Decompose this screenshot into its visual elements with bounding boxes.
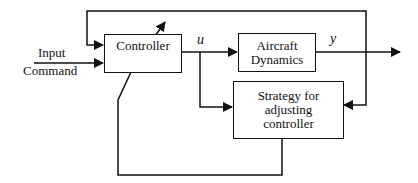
diagram-connections (0, 0, 418, 183)
input-label: Input (38, 46, 65, 60)
strategy-label-line2: adjusting (265, 103, 313, 117)
aircraft-label-line1: Aircraft (256, 39, 297, 53)
strategy-block: Strategy for adjusting controller (233, 81, 344, 139)
u-signal-label: u (197, 32, 204, 48)
aircraft-label-line2: Dynamics (251, 53, 304, 67)
u-branch-arrow (200, 52, 232, 107)
command-label: Command (23, 64, 77, 78)
controller-label: Controller (116, 39, 169, 53)
y-signal-label: y (330, 31, 336, 47)
aircraft-dynamics-block: Aircraft Dynamics (238, 33, 316, 72)
output-to-strategy-arrow (344, 52, 366, 105)
controller-block: Controller (104, 34, 182, 73)
strategy-label-line1: Strategy for (258, 89, 320, 103)
strategy-label-line3: controller (263, 117, 314, 131)
